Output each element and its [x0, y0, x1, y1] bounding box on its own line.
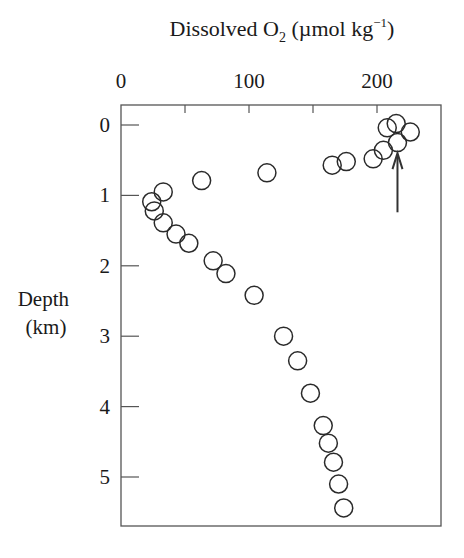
depth-oxygen-profile-chart: Dissolved O2 (µmol kg−1) 0100200 012345 …: [0, 0, 464, 558]
x-tick-labels: 0100200: [116, 69, 393, 93]
data-point: [154, 183, 172, 201]
x-tick-label: 100: [233, 69, 265, 93]
y-tick-label: 0: [100, 113, 111, 137]
data-point: [388, 134, 406, 152]
data-point: [217, 265, 235, 283]
y-tick-label: 5: [100, 465, 111, 489]
data-point: [330, 475, 348, 493]
data-point: [245, 286, 263, 304]
x-axis-title: Dissolved O2 (µmol kg−1): [170, 15, 395, 45]
data-point: [301, 384, 319, 402]
data-point: [154, 214, 172, 232]
y-tick-label: 2: [100, 254, 111, 278]
x-tick-label: 0: [116, 69, 127, 93]
data-markers: [143, 115, 420, 517]
x-tick-label: 200: [361, 69, 393, 93]
data-point: [167, 225, 185, 243]
data-point: [275, 327, 293, 345]
y-tick-label: 1: [100, 183, 111, 207]
y-tick-label: 3: [100, 324, 111, 348]
axis-ticks: [121, 105, 377, 477]
data-point: [180, 234, 198, 252]
data-point: [401, 123, 419, 141]
y-axis-title: Depth (km): [18, 287, 75, 339]
data-point: [335, 499, 353, 517]
data-point: [258, 164, 276, 182]
y-tick-labels: 012345: [100, 113, 111, 489]
data-point: [314, 417, 332, 435]
data-point: [193, 172, 211, 190]
data-point: [324, 453, 342, 471]
y-tick-label: 4: [100, 395, 111, 419]
data-point: [289, 352, 307, 370]
data-point: [319, 434, 337, 452]
arrow-annotation: [392, 153, 402, 212]
